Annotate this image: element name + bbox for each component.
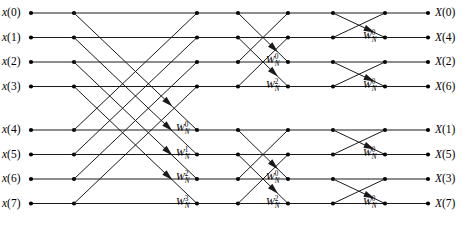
twiddle-exponent: 2 [275,194,279,202]
label-index: (1) [7,31,20,43]
twiddle-exponent: 0 [372,194,376,202]
output-node-4 [426,128,430,132]
label-variable: X [435,6,442,18]
twiddle-base: W [363,79,372,90]
twiddle-exponent: 0 [372,145,376,153]
twiddle-subscript: N [275,60,280,68]
output-label-6: X(3) [435,173,455,185]
input-label-4: x(4) [2,124,21,136]
signal-flow-graph [0,0,462,234]
twiddle-base: W [266,196,275,207]
twiddle-label-stage2-row3: W2N [266,80,280,91]
label-index: (6) [7,172,20,184]
label-index: (6) [442,80,455,92]
label-index: (5) [442,148,455,160]
label-variable: X [435,197,442,209]
label-variable: X [435,148,442,160]
label-index: (3) [442,172,455,184]
label-index: (0) [442,6,455,18]
output-label-1: X(4) [435,32,455,44]
twiddle-base: W [363,196,372,207]
input-node-1 [29,35,33,39]
twiddle-subscript: N [372,153,377,161]
label-variable: X [435,172,442,184]
input-node-4 [29,128,33,132]
twiddle-base: W [176,147,185,158]
twiddle-label-stage1-row4: W0N [176,123,190,134]
twiddle-base: W [176,196,185,207]
twiddle-label-stage3-row3: W0N [363,80,377,91]
output-node-1 [426,35,430,39]
output-node-5 [426,152,430,156]
output-node-2 [426,60,430,64]
output-label-5: X(5) [435,149,455,161]
twiddle-subscript: N [275,85,280,93]
output-node-6 [426,177,430,181]
twiddle-exponent: 1 [185,145,189,153]
input-label-1: x(1) [2,32,21,44]
twiddle-subscript: N [275,177,280,185]
output-label-7: X(7) [435,198,455,210]
twiddle-subscript: N [275,202,280,210]
input-node-6 [29,177,33,181]
twiddle-base: W [266,79,275,90]
input-label-5: x(5) [2,149,21,161]
input-label-7: x(7) [2,198,21,210]
output-node-0 [426,11,430,15]
twiddle-subscript: N [372,202,377,210]
output-label-3: X(6) [435,81,455,93]
twiddle-base: W [266,171,275,182]
twiddle-base: W [363,30,372,41]
input-node-0 [29,11,33,15]
label-index: (1) [442,123,455,135]
twiddle-label-stage3-row1: W0N [363,31,377,42]
twiddle-subscript: N [185,202,190,210]
twiddle-base: W [176,122,185,133]
label-variable: X [435,55,442,67]
twiddle-base: W [176,171,185,182]
twiddle-label-stage1-row6: W2N [176,172,190,183]
twiddle-exponent: 3 [185,194,189,202]
twiddle-base: W [363,147,372,158]
twiddle-label-stage2-row6: W0N [266,172,280,183]
label-index: (2) [442,55,455,67]
input-node-5 [29,152,33,156]
label-index: (5) [7,148,20,160]
input-label-0: x(0) [2,7,21,19]
label-index: (0) [7,6,20,18]
output-label-4: X(1) [435,124,455,136]
label-index: (4) [442,31,455,43]
label-index: (2) [7,55,20,67]
twiddle-subscript: N [185,177,190,185]
input-node-2 [29,60,33,64]
label-variable: X [435,80,442,92]
fft-butterfly-diagram: x(0)x(1)x(2)x(3)x(4)x(5)x(6)x(7)X(0)X(4)… [0,0,462,234]
label-variable: X [435,31,442,43]
twiddle-subscript: N [372,85,377,93]
output-node-7 [426,201,430,205]
twiddle-exponent: 2 [275,77,279,85]
twiddle-label-stage2-row2: W0N [266,55,280,66]
twiddle-exponent: 0 [372,28,376,36]
output-label-0: X(0) [435,7,455,19]
label-index: (3) [7,80,20,92]
label-index: (4) [7,123,20,135]
input-label-6: x(6) [2,173,21,185]
twiddle-subscript: N [185,153,190,161]
label-variable: X [435,123,442,135]
label-index: (7) [7,197,20,209]
twiddle-base: W [266,54,275,65]
twiddle-subscript: N [372,36,377,44]
twiddle-exponent: 0 [372,77,376,85]
twiddle-label-stage3-row7: W0N [363,197,377,208]
twiddle-subscript: N [185,128,190,136]
input-node-7 [29,201,33,205]
input-label-3: x(3) [2,81,21,93]
twiddle-label-stage1-row7: W3N [176,197,190,208]
input-label-2: x(2) [2,56,21,68]
output-node-3 [426,84,430,88]
input-node-3 [29,84,33,88]
twiddle-label-stage1-row5: W1N [176,148,190,159]
twiddle-label-stage3-row5: W0N [363,148,377,159]
label-index: (7) [442,197,455,209]
